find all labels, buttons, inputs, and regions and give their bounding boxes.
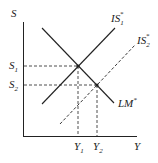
y-axis-label: S [11, 7, 17, 19]
axes [23, 22, 137, 137]
y2-label: Y2 [93, 140, 103, 155]
s1-label: S1 [9, 59, 18, 74]
economics-diagram: S Y IS1* IS2* LM* S1 [0, 0, 158, 163]
equilibrium-point-2 [95, 83, 98, 86]
lm-star-label: LM* [117, 96, 137, 109]
guide-lines [24, 66, 97, 136]
s2-label: S2 [9, 78, 19, 93]
is1-star-label: IS1* [110, 10, 124, 27]
equilibrium-point-1 [76, 64, 79, 67]
y1-label: Y1 [74, 140, 84, 155]
x-axis-label: Y [134, 140, 142, 152]
is2-star-label: IS2* [136, 32, 150, 49]
curves [42, 28, 135, 124]
